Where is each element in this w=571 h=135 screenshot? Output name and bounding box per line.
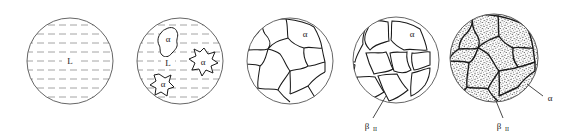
label-alpha-p4: α — [410, 29, 415, 39]
label-liquid-p1: L — [67, 56, 73, 66]
label-beta-p5-subscript: II — [505, 126, 509, 132]
panel-liquid-only: L — [25, 16, 117, 108]
grain-cells-p4 — [338, 21, 430, 101]
label-beta-p5: β — [497, 121, 502, 131]
panel-alpha-nuclei-in-liquid: L α α α — [135, 16, 227, 108]
leader-line-alpha-p5 — [527, 84, 543, 96]
label-beta-p4: β — [365, 121, 370, 131]
liquid-hatch-region-2 — [135, 16, 227, 108]
label-liquid-p2: L — [165, 58, 171, 68]
label-alpha-p5: α — [548, 93, 553, 103]
panel-alpha-grains: α — [239, 18, 333, 104]
panel-eutectoid-stippled: α β II — [447, 14, 552, 132]
label-alpha-p2-lower: α — [161, 79, 166, 89]
figure-canvas: L — [0, 0, 571, 135]
panel-beta-at-boundaries: α β II — [338, 17, 439, 132]
microstructure-diagram: L — [0, 0, 571, 135]
label-beta-p4-subscript: II — [373, 126, 377, 132]
label-alpha-p3: α — [303, 29, 308, 39]
label-alpha-p2-upper: α — [166, 34, 171, 44]
grain-p4-7 — [338, 62, 355, 86]
label-alpha-p2-right: α — [201, 57, 206, 67]
